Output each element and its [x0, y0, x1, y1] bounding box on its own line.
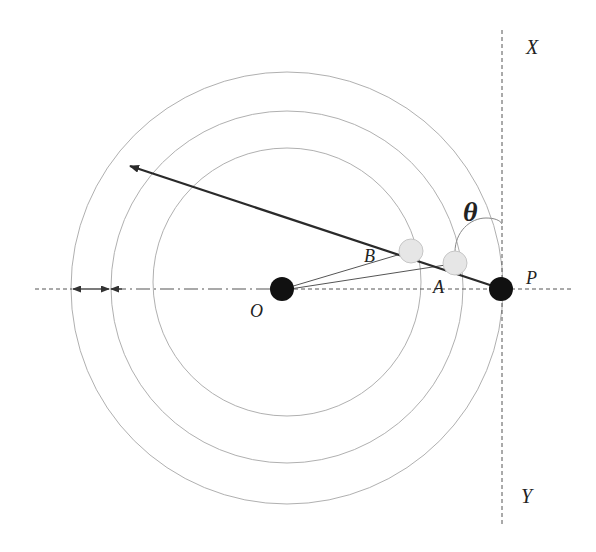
label-p: P [525, 268, 537, 288]
label-theta: θ [463, 196, 478, 227]
label-y: Y [521, 485, 534, 507]
point-b [399, 239, 423, 263]
point-a [443, 251, 467, 275]
label-b: B [364, 246, 375, 266]
point-o [270, 277, 294, 301]
propagation-arrow [130, 166, 496, 287]
label-a: A [432, 277, 445, 297]
line-o-to-a [290, 264, 452, 289]
line-o-to-b [290, 251, 411, 287]
wave-propagation-diagram: X Y θ B A P O [0, 0, 596, 552]
point-p [489, 277, 513, 301]
label-o: O [250, 301, 263, 321]
label-x: X [525, 36, 539, 58]
